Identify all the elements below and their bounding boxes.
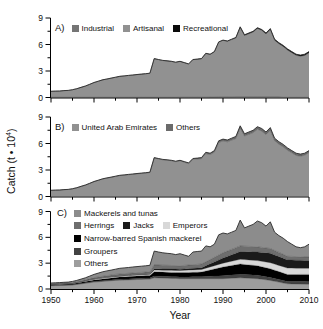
legend-swatch-icon [74,260,81,267]
legend-item: Others [166,123,200,132]
panel-b-header: B) United Arab EmiratesOthers [55,121,200,134]
panel-b-legend: United Arab EmiratesOthers [72,121,201,134]
legend-row: IndustrialArtisanalRecreational [72,22,229,35]
x-tick-label: 1970 [128,295,147,305]
legend-item: United Arab Emirates [72,123,158,132]
legend-label: Recreational [183,24,228,33]
legend-label: Others [84,259,108,268]
legend-label: Mackerels and tunas [84,209,158,218]
legend-item: Recreational [173,24,228,33]
y-tick-label: 9 [38,13,43,23]
legend-row: HerringsJacksEmperors [74,220,207,233]
area-united-arab-emirates [51,128,309,197]
area-artisanal [51,28,309,98]
legend-item: Narrow-barred Spanish mackerel [74,234,201,243]
y-tick-label: 3 [38,66,43,76]
legend-row: Mackerels and tunas [74,207,207,220]
legend-label: Others [176,123,200,132]
legend-item: Groupers [74,247,117,256]
y-tick-label: 3 [38,258,43,268]
legend-label: Groupers [84,247,117,256]
legend-swatch-icon [74,210,81,217]
x-tick-label: 1990 [214,295,233,305]
legend-swatch-icon [173,25,180,32]
x-tick-label: 1980 [171,295,190,305]
legend-swatch-icon [74,235,81,242]
legend-item: Jacks [123,221,153,230]
y-tick-label: 6 [38,232,43,242]
legend-label: Emperors [173,221,208,230]
legend-swatch-icon [72,124,79,131]
y-tick-label: 6 [38,40,43,50]
x-axis-label: Year [51,309,309,321]
legend-label: United Arab Emirates [82,123,158,132]
legend-item: Industrial [72,24,114,33]
legend-label: Jacks [133,221,153,230]
x-tick-label: 1950 [42,295,61,305]
legend-swatch-icon [163,222,170,229]
legend-swatch-icon [166,124,173,131]
legend-swatch-icon [123,222,130,229]
y-tick-label: 0 [38,192,43,202]
legend-row: Others [74,257,207,270]
y-tick-label: 0 [38,284,43,294]
panel-b-plot [51,126,309,197]
y-tick-label: 6 [38,139,43,149]
legend-label: Industrial [82,24,114,33]
legend-row: Narrow-barred Spanish mackerel [74,232,207,245]
legend-swatch-icon [74,248,81,255]
panel-c-letter: C) [57,207,67,218]
legend-item: Artisanal [123,24,164,33]
legend-item: Herrings [74,221,114,230]
x-tick-label: 2000 [257,295,276,305]
panel-a-legend: IndustrialArtisanalRecreational [72,22,229,35]
y-axis-label: Catch (t • 104) [5,101,18,221]
stacked-area-plot: 0369036903691950196019701980199020002010 [0,0,323,329]
panel-b-letter: B) [55,121,65,132]
y-axis-label-suffix: ) [5,129,17,133]
panel-c-legend: Mackerels and tunasHerringsJacksEmperors… [74,207,207,270]
legend-row: Groupers [74,245,207,258]
y-tick-label: 9 [38,112,43,122]
y-tick-label: 0 [38,93,43,103]
legend-row: United Arab EmiratesOthers [72,121,201,134]
figure-root: 0369036903691950196019701980199020002010… [0,0,323,329]
panel-a-header: A) IndustrialArtisanalRecreational [55,22,228,35]
legend-item: Others [74,259,108,268]
legend-swatch-icon [74,222,81,229]
legend-swatch-icon [123,25,130,32]
panel-a-letter: A) [55,22,65,33]
panel-a-plot [51,27,309,98]
legend-item: Emperors [163,221,208,230]
legend-swatch-icon [72,25,79,32]
y-axis-label-text: Catch (t • 10 [5,136,17,194]
x-tick-label: 2010 [300,295,319,305]
x-tick-label: 1960 [85,295,104,305]
legend-item: Mackerels and tunas [74,209,158,218]
legend-label: Artisanal [133,24,164,33]
panel-c-header: C) Mackerels and tunasHerringsJacksEmper… [57,207,207,270]
legend-label: Herrings [84,221,114,230]
legend-label: Narrow-barred Spanish mackerel [84,234,201,243]
y-tick-label: 3 [38,165,43,175]
y-axis-label-exponent: 4 [5,132,12,136]
y-tick-label: 9 [38,207,43,217]
